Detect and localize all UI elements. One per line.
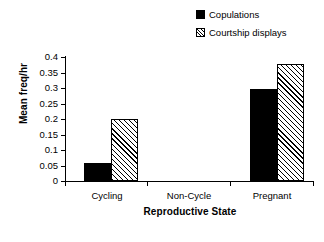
legend-swatch-solid-square-icon <box>196 10 205 19</box>
bar-courtship-pregnant <box>277 64 304 181</box>
plot-area: 0 0.05 0.1 0.15 0.2 0.25 0.3 0.35 0.4 <box>66 57 314 181</box>
y-tick-label-2: 0.1 <box>45 144 58 155</box>
y-tick-4: 0.2 <box>61 119 66 120</box>
x-category-label-pregnant: Pregnant <box>253 190 292 201</box>
y-tick-label-1: 0.05 <box>40 160 59 171</box>
y-tick-label-6: 0.3 <box>45 82 58 93</box>
y-tick-5: 0.25 <box>61 104 66 105</box>
x-tick-boundary-1 <box>147 181 148 186</box>
x-category-label-non-cycle: Non-Cycle <box>167 190 211 201</box>
y-tick-label-3: 0.15 <box>40 129 59 140</box>
chart-legend: Copulations Courtship displays <box>196 8 287 38</box>
y-tick-6: 0.3 <box>61 88 66 89</box>
bar-chart-figure: Copulations Courtship displays Mean freq… <box>0 0 324 242</box>
legend-label-copulations: Copulations <box>209 9 259 20</box>
x-axis-title: Reproductive State <box>66 206 314 217</box>
x-axis-line <box>65 181 314 182</box>
y-tick-label-8: 0.4 <box>45 51 58 62</box>
x-tick-left-edge <box>65 181 66 186</box>
legend-swatch-hatched-square-icon <box>196 28 205 37</box>
y-tick-label-4: 0.2 <box>45 113 58 124</box>
x-tick-right-edge <box>313 181 314 186</box>
x-category-label-cycling: Cycling <box>91 190 122 201</box>
x-tick-boundary-2 <box>230 181 231 186</box>
bar-copulations-cycling <box>84 163 111 181</box>
y-tick-label-7: 0.35 <box>40 67 59 78</box>
y-tick-label-0: 0 <box>53 175 58 186</box>
legend-label-courtship-displays: Courtship displays <box>209 27 287 38</box>
legend-item-copulations: Copulations <box>196 8 287 20</box>
y-tick-8: 0.4 <box>61 57 66 58</box>
y-tick-label-5: 0.25 <box>40 98 59 109</box>
y-tick-7: 0.35 <box>61 73 66 74</box>
y-axis-title: Mean freq/hr <box>18 39 29 149</box>
y-tick-3: 0.15 <box>61 135 66 136</box>
legend-item-courtship-displays: Courtship displays <box>196 26 287 38</box>
y-tick-1: 0.05 <box>61 166 66 167</box>
y-tick-2: 0.1 <box>61 150 66 151</box>
bar-courtship-cycling <box>111 119 138 181</box>
bar-copulations-pregnant <box>250 89 277 181</box>
